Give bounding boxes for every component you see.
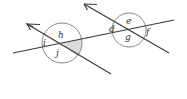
- angle-label-i: i: [43, 38, 46, 48]
- angle-label-h: h: [58, 30, 64, 40]
- right-arrow-barb: [84, 4, 97, 5]
- angle-label-f: f: [145, 27, 151, 37]
- right-parallel-line: [84, 4, 169, 53]
- left-arrow-barb: [27, 24, 40, 25]
- left-parallel-line: [27, 24, 111, 74]
- parallel-lines-diagram: h i j e d g f: [0, 0, 187, 99]
- angle-label-g: g: [125, 32, 131, 42]
- left-arrow-icon: [27, 24, 33, 30]
- angle-label-e: e: [126, 16, 131, 26]
- angle-label-d: d: [109, 24, 115, 34]
- angle-label-j: j: [54, 48, 59, 58]
